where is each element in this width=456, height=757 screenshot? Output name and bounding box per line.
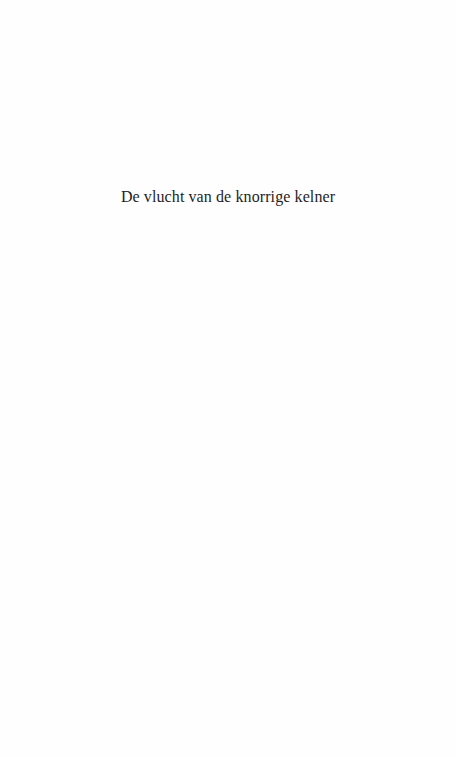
book-title: De vlucht van de knorrige kelner (0, 188, 456, 206)
book-page: De vlucht van de knorrige kelner (0, 0, 456, 757)
